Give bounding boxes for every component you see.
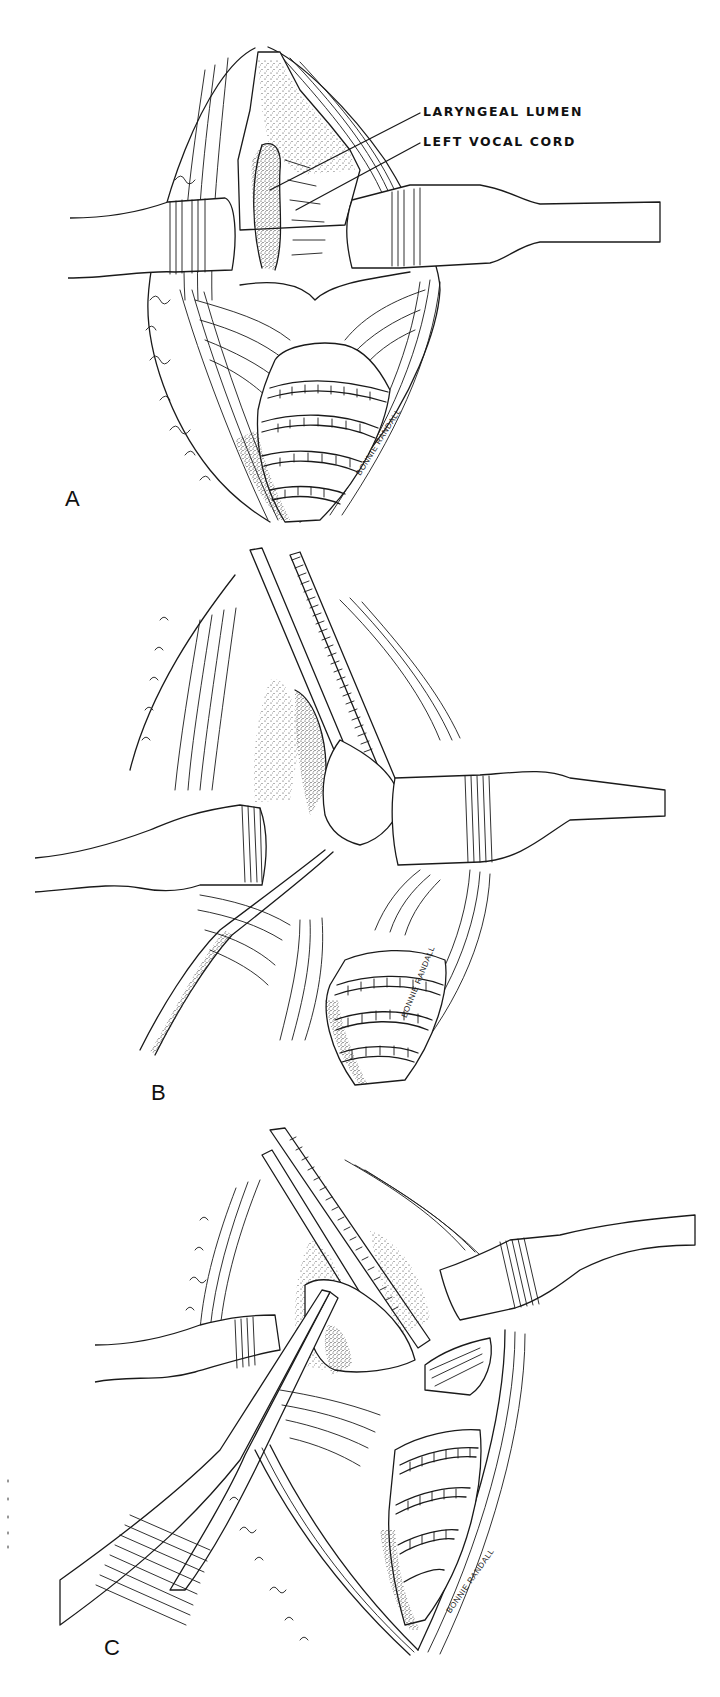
callout-left-vocal-cord: LEFT VOCAL CORD [423,134,576,149]
callout-laryngeal-lumen: LARYNGEAL LUMEN [423,104,583,119]
panel-c-illustration [0,1120,720,1697]
panel-b-illustration [0,540,720,1120]
panel-b: BONNIE RANDALL B [0,540,720,1120]
panel-label-c: C [104,1637,120,1659]
panel-c: BONNIE RANDALL C [0,1120,720,1697]
panel-label-b: B [151,1082,166,1104]
panel-a: LARYNGEAL LUMEN LEFT VOCAL CORD BONNIE R… [0,0,720,540]
panel-a-illustration [0,0,720,540]
panel-label-a: A [65,488,80,510]
